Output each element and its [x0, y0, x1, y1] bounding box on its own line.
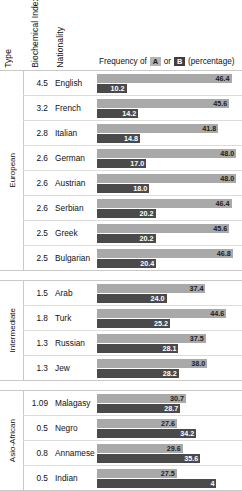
- bar-b[interactable]: 20.2: [97, 209, 156, 218]
- cell-nationality: Turk: [51, 306, 97, 330]
- bar-track-b: 35.6: [97, 454, 242, 463]
- bar-value-b: 34.2: [180, 429, 194, 438]
- bar-a[interactable]: 45.6: [97, 99, 229, 108]
- table-row[interactable]: 0.8Annamese29.635.6: [23, 441, 242, 466]
- cell-biochemical-index: 2.5: [23, 221, 51, 245]
- group-label-text: European: [8, 153, 17, 188]
- bar-b[interactable]: 10.2: [97, 84, 127, 93]
- bar-b[interactable]: 25.2: [97, 319, 170, 328]
- cell-bars: 46.410.2: [97, 71, 242, 95]
- bar-b[interactable]: 17.0: [97, 159, 146, 168]
- bar-b[interactable]: 28.2: [97, 369, 179, 378]
- cell-nationality: Serbian: [51, 196, 97, 220]
- bar-b[interactable]: 4: [97, 479, 216, 488]
- bar-track-a: 48.0: [97, 174, 242, 183]
- bar-a[interactable]: 27.6: [97, 419, 177, 428]
- table-row[interactable]: 4.5English46.410.2: [23, 71, 242, 96]
- cell-bars: 29.635.6: [97, 441, 242, 465]
- table-row[interactable]: 2.6Austrian48.018.0: [23, 171, 242, 196]
- cell-nationality: Malagasy: [51, 391, 97, 415]
- bar-track-a: 45.6: [97, 99, 242, 108]
- table-row[interactable]: 3.2French45.614.2: [23, 96, 242, 121]
- bar-track-b: 34.2: [97, 429, 242, 438]
- bar-track-b: 20.2: [97, 234, 242, 243]
- cell-bars: 37.424.0: [97, 281, 242, 305]
- legend-badge-a: A: [150, 57, 161, 66]
- table-row[interactable]: 1.3Jew38.028.2: [23, 356, 242, 380]
- bar-value-b: 28.7: [164, 404, 178, 413]
- bar-track-a: 46.8: [97, 249, 242, 258]
- table-row[interactable]: 0.5Indian27.54: [23, 466, 242, 490]
- bar-a[interactable]: 41.8: [97, 124, 218, 133]
- bar-b[interactable]: 18.0: [97, 184, 149, 193]
- table-row[interactable]: 2.6Serbian46.420.2: [23, 196, 242, 221]
- cell-nationality: Russian: [51, 331, 97, 355]
- bar-b[interactable]: 20.4: [97, 259, 156, 268]
- cell-bars: 48.017.0: [97, 146, 242, 170]
- bar-b[interactable]: 24.0: [97, 294, 167, 303]
- bar-value-a: 37.4: [189, 284, 203, 293]
- bar-b[interactable]: 14.2: [97, 109, 138, 118]
- table-row[interactable]: 2.5Bulgarian46.820.4: [23, 246, 242, 270]
- bar-value-b: 4: [210, 479, 214, 488]
- table-row[interactable]: 1.3Russian37.528.1: [23, 331, 242, 356]
- bar-value-a: 46.4: [216, 199, 230, 208]
- bar-track-b: 10.2: [97, 84, 242, 93]
- bar-track-a: 41.8: [97, 124, 242, 133]
- table-row[interactable]: 2.5Greek45.620.2: [23, 221, 242, 246]
- bar-value-a: 30.7: [170, 394, 184, 403]
- bar-b[interactable]: 34.2: [97, 429, 196, 438]
- rows: 1.5Arab37.424.01.8Turk44.625.21.3Russian…: [23, 281, 242, 380]
- bar-a[interactable]: 30.7: [97, 394, 186, 403]
- table-row[interactable]: 2.8Italian41.814.8: [23, 121, 242, 146]
- cell-nationality: Jew: [51, 356, 97, 380]
- cell-nationality: Indian: [51, 466, 97, 490]
- table-row[interactable]: 2.6German48.017.0: [23, 146, 242, 171]
- bar-b[interactable]: 20.2: [97, 234, 156, 243]
- bar-track-a: 27.5: [97, 469, 242, 478]
- cell-biochemical-index: 2.6: [23, 196, 51, 220]
- cell-biochemical-index: 2.6: [23, 171, 51, 195]
- cell-biochemical-index: 1.3: [23, 356, 51, 380]
- bar-value-a: 48.0: [220, 174, 234, 183]
- bar-a[interactable]: 37.5: [97, 334, 206, 343]
- bar-b[interactable]: 28.1: [97, 344, 178, 353]
- bar-a[interactable]: 37.4: [97, 284, 205, 293]
- bar-track-b: 28.1: [97, 344, 242, 353]
- group-label-intermediate: Intermediate: [2, 281, 24, 380]
- bar-a[interactable]: 27.5: [97, 469, 177, 478]
- bar-a[interactable]: 29.6: [97, 444, 183, 453]
- bar-a[interactable]: 44.6: [97, 309, 226, 318]
- bar-b[interactable]: 14.8: [97, 134, 140, 143]
- bar-track-b: 14.2: [97, 109, 242, 118]
- table-row[interactable]: 1.5Arab37.424.0: [23, 281, 242, 306]
- bar-b[interactable]: 35.6: [97, 454, 200, 463]
- bar-track-b: 20.2: [97, 209, 242, 218]
- bar-a[interactable]: 46.8: [97, 249, 233, 258]
- rows: 1.09Malagasy30.728.70.5Negro27.634.20.8A…: [23, 391, 242, 490]
- bar-value-b: 18.0: [133, 184, 147, 193]
- bar-a[interactable]: 46.4: [97, 199, 232, 208]
- bar-track-a: 37.4: [97, 284, 242, 293]
- bar-a[interactable]: 48.0: [97, 174, 236, 183]
- table-row[interactable]: 1.09Malagasy30.728.7: [23, 391, 242, 416]
- bar-a[interactable]: 38.0: [97, 359, 207, 368]
- bar-b[interactable]: 28.7: [97, 404, 180, 413]
- bar-a[interactable]: 48.0: [97, 149, 236, 158]
- cell-nationality: German: [51, 146, 97, 170]
- cell-nationality: Negro: [51, 416, 97, 440]
- bar-value-b: 20.2: [140, 209, 154, 218]
- cell-biochemical-index: 2.6: [23, 146, 51, 170]
- cell-bars: 38.028.2: [97, 356, 242, 380]
- bar-value-b: 24.0: [151, 294, 165, 303]
- bar-track-a: 38.0: [97, 359, 242, 368]
- column-header-biochemical-index: Biochemical Index: [30, 0, 40, 68]
- bar-a[interactable]: 46.4: [97, 74, 232, 83]
- column-header-nationality: Nationality: [55, 27, 65, 68]
- bar-a[interactable]: 45.6: [97, 224, 229, 233]
- table-row[interactable]: 1.8Turk44.625.2: [23, 306, 242, 331]
- table-row[interactable]: 0.5Negro27.634.2: [23, 416, 242, 441]
- cell-nationality: Bulgarian: [51, 246, 97, 270]
- bar-value-b: 28.1: [162, 344, 176, 353]
- bar-track-b: 18.0: [97, 184, 242, 193]
